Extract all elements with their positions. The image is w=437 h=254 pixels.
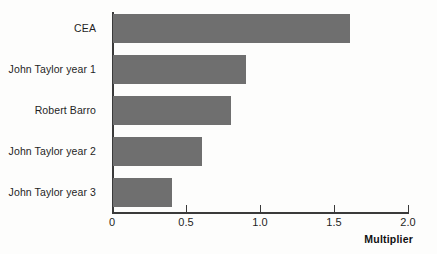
bar-category-label: John Taylor year 2	[9, 137, 96, 166]
x-axis-tick-mark	[186, 205, 187, 213]
bar-row: CEA	[0, 14, 437, 43]
bar-row: Robert Barro	[0, 96, 437, 125]
bar-category-label: John Taylor year 1	[9, 55, 96, 84]
x-axis-tick-label: 2.0	[400, 216, 415, 228]
bar-cea	[113, 14, 350, 43]
bar-row: John Taylor year 3	[0, 178, 437, 207]
bar-row: John Taylor year 1	[0, 55, 437, 84]
bar-john-taylor-year-1	[113, 55, 246, 84]
x-axis-tick-label: 0.5	[178, 216, 193, 228]
bar-john-taylor-year-2	[113, 137, 202, 166]
x-axis-tick-label: 1.5	[326, 216, 341, 228]
x-axis-tick-label: 1.0	[252, 216, 267, 228]
bar-category-label: Robert Barro	[35, 96, 96, 125]
bar-robert-barro	[113, 96, 231, 125]
x-axis-tick-mark	[334, 205, 335, 213]
bar-john-taylor-year-3	[113, 178, 172, 207]
bars-layer: CEA John Taylor year 1 Robert Barro John…	[0, 0, 437, 254]
bar-row: John Taylor year 2	[0, 137, 437, 166]
bar-category-label: John Taylor year 3	[9, 178, 96, 207]
x-axis-tick-mark	[112, 205, 113, 213]
bar-chart: CEA John Taylor year 1 Robert Barro John…	[0, 0, 437, 254]
bar-category-label: CEA	[74, 14, 96, 43]
x-axis-tick-mark	[408, 205, 409, 213]
x-axis-title: Multiplier	[364, 233, 413, 245]
x-axis-tick-mark	[260, 205, 261, 213]
x-axis-tick-label: 0	[109, 216, 115, 228]
